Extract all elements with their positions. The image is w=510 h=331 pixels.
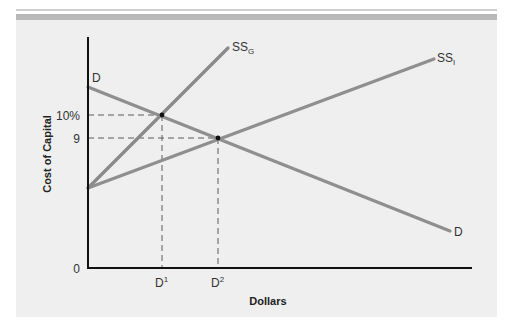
series-ssi-line <box>88 59 434 188</box>
intersection-point-1 <box>160 113 165 118</box>
label-ssg: SSG <box>232 40 254 56</box>
series-d-line <box>88 87 450 231</box>
guide-lines <box>88 115 218 268</box>
x-tick-d2: D2 <box>211 275 225 290</box>
label-ssg-main: SS <box>232 40 248 54</box>
label-ssi-sub: I <box>453 58 455 67</box>
label-d-start: D <box>92 71 101 85</box>
intersection-point-2 <box>216 136 221 141</box>
x-tick-d1: D1 <box>155 275 169 290</box>
y-tick-10pct: 10% <box>56 109 80 123</box>
y-tick-9: 9 <box>73 132 80 146</box>
series-ssg-line <box>88 48 228 188</box>
x-tick-d2-sup: 2 <box>220 275 225 284</box>
x-axis-title: Dollars <box>249 295 286 307</box>
label-ssi: SSI <box>437 51 455 67</box>
y-tick-0: 0 <box>73 262 80 276</box>
x-tick-d1-sup: 1 <box>164 275 169 284</box>
label-ssg-sub: G <box>248 47 254 56</box>
x-tick-d1-main: D <box>155 276 164 290</box>
label-ssi-main: SS <box>437 51 453 65</box>
label-d-end: D <box>454 225 463 239</box>
chart-svg: 10% 9 0 D1 D2 D D SSG SSI Cost of Capita… <box>0 0 510 331</box>
x-tick-d2-main: D <box>211 276 220 290</box>
y-axis-title: Cost of Capital <box>41 115 53 193</box>
